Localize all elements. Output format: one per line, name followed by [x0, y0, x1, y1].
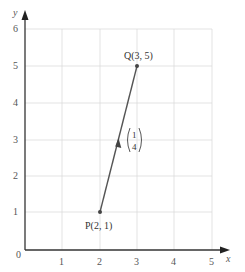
vector-component-x: 1	[132, 130, 137, 140]
vector-arrow-icon	[115, 138, 121, 148]
y-tick: 1	[13, 206, 18, 217]
point-p	[98, 210, 102, 214]
y-tick-labels: 1 2 3 4 5 6	[13, 23, 18, 217]
x-tick-labels: 1 2 3 4 5	[59, 256, 214, 267]
y-axis	[22, 10, 29, 250]
x-tick: 1	[59, 256, 64, 267]
y-axis-label: y	[12, 7, 18, 18]
y-tick: 6	[13, 23, 18, 34]
x-tick: 2	[97, 256, 102, 267]
y-tick: 3	[13, 134, 18, 145]
point-p-label: P(2, 1)	[85, 220, 112, 232]
y-axis-arrow-icon	[22, 10, 29, 20]
x-tick: 4	[171, 256, 176, 267]
x-axis-label: x	[225, 253, 231, 264]
x-tick: 5	[209, 256, 214, 267]
x-tick: 3	[134, 256, 139, 267]
x-axis	[25, 247, 230, 254]
y-tick: 2	[13, 170, 18, 181]
y-tick: 5	[13, 60, 18, 71]
point-q-label: Q(3, 5)	[124, 50, 153, 62]
vector-component-y: 4	[132, 142, 137, 152]
point-q	[135, 64, 139, 68]
y-tick: 4	[13, 97, 18, 108]
coordinate-diagram: y x 0 1 2 3 4 5 1 2 3 4 5 6 P(2, 1) Q(3,…	[0, 0, 245, 272]
origin-label: 0	[16, 249, 21, 260]
